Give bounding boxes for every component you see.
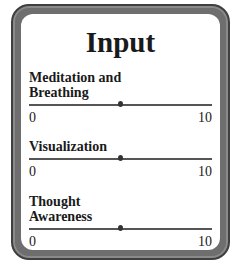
slider-track[interactable] xyxy=(29,158,212,160)
slider-max: 10 xyxy=(198,164,212,180)
slider-label: Visualization xyxy=(29,139,212,154)
slider-label: Thought Awareness xyxy=(29,194,212,224)
slider-track[interactable] xyxy=(29,228,212,230)
label-line: Visualization xyxy=(29,139,212,154)
label-line: Meditation and xyxy=(29,70,212,85)
slider-max: 10 xyxy=(198,110,212,126)
label-line: Awareness xyxy=(29,209,212,224)
slider-min: 0 xyxy=(29,234,36,250)
slider-thumb[interactable] xyxy=(118,225,123,231)
slider-thumb[interactable] xyxy=(118,101,123,107)
slider-min: 0 xyxy=(29,110,36,126)
slider-max: 10 xyxy=(198,234,212,250)
input-panel: Input Meditation and Breathing 0 10 Visu… xyxy=(21,14,220,250)
slider-thumb[interactable] xyxy=(118,155,123,161)
slider-meditation-breathing: Meditation and Breathing 0 10 xyxy=(29,70,212,126)
slider-min: 0 xyxy=(29,164,36,180)
label-line: Thought xyxy=(29,194,212,209)
panel-title: Input xyxy=(21,26,220,59)
slider-thought-awareness: Thought Awareness 0 10 xyxy=(29,194,212,250)
input-panel-frame: Input Meditation and Breathing 0 10 Visu… xyxy=(11,4,230,260)
slider-track[interactable] xyxy=(29,104,212,106)
slider-visualization: Visualization 0 10 xyxy=(29,139,212,180)
label-line: Breathing xyxy=(29,85,212,100)
slider-label: Meditation and Breathing xyxy=(29,70,212,100)
